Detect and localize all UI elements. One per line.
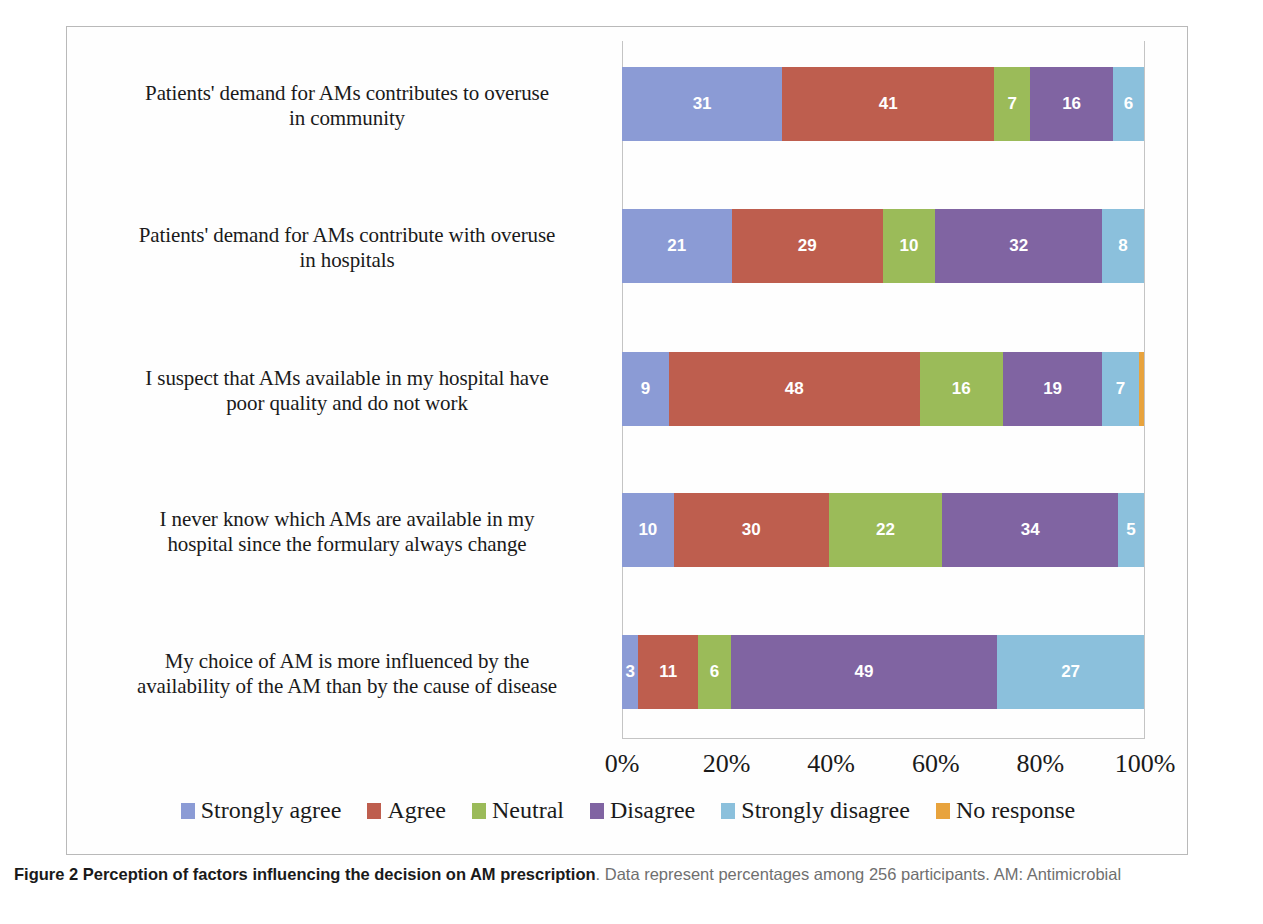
legend-item[interactable]: Strongly agree <box>181 797 342 824</box>
bar-value-label: 49 <box>855 662 874 682</box>
category-label-line: in hospitals <box>77 248 617 273</box>
legend-item[interactable]: Neutral <box>472 797 564 824</box>
bar-segment: 19 <box>1003 352 1102 426</box>
bar-value-label: 6 <box>1124 94 1133 114</box>
bar-segment: 9 <box>622 352 669 426</box>
bar-value-label: 34 <box>1021 520 1040 540</box>
bar-value-label: 22 <box>876 520 895 540</box>
x-axis-tick-label: 0% <box>605 749 640 779</box>
bar-segment: 11 <box>638 635 698 709</box>
x-axis-tick-label: 100% <box>1115 749 1176 779</box>
legend-label: Strongly agree <box>201 797 342 824</box>
figure-caption: Figure 2 Perception of factors influenci… <box>14 862 1249 887</box>
category-label-line: I never know which AMs are available in … <box>77 507 617 532</box>
bar-value-label: 7 <box>1007 94 1016 114</box>
category-label-line: in community <box>77 106 617 131</box>
bar-value-label: 27 <box>1061 662 1080 682</box>
bar-value-label: 6 <box>710 662 719 682</box>
legend-label: Agree <box>387 797 446 824</box>
stacked-bar: 31417166 <box>622 67 1144 141</box>
legend-swatch-icon <box>472 803 486 819</box>
bar-segment: 30 <box>674 493 829 567</box>
figure-frame: Patients' demand for AMs contributes to … <box>66 26 1188 855</box>
bar-segment: 29 <box>732 209 883 283</box>
legend-label: Disagree <box>610 797 695 824</box>
bar-value-label: 32 <box>1009 236 1028 256</box>
legend-swatch-icon <box>367 803 381 819</box>
figure-caption-body: . Data represent percentages among 256 p… <box>596 865 1122 883</box>
bar-value-label: 16 <box>952 379 971 399</box>
category-label-line: I suspect that AMs available in my hospi… <box>77 366 617 391</box>
x-axis-tick-label: 20% <box>703 749 751 779</box>
bar-segment: 8 <box>1102 209 1144 283</box>
bar-value-label: 41 <box>879 94 898 114</box>
legend-item[interactable]: Agree <box>367 797 446 824</box>
category-label-line: Patients' demand for AMs contribute with… <box>77 223 617 248</box>
bar-value-label: 29 <box>798 236 817 256</box>
x-axis: 0%20%40%60%80%100% <box>622 743 1145 783</box>
legend-swatch-icon <box>721 803 735 819</box>
bar-segment: 7 <box>994 67 1030 141</box>
bar-segment <box>1139 352 1144 426</box>
bar-segment: 16 <box>920 352 1004 426</box>
bar-segment: 6 <box>698 635 731 709</box>
category-label-line: My choice of AM is more influenced by th… <box>77 649 617 674</box>
legend-swatch-icon <box>936 803 950 819</box>
bar-value-label: 21 <box>667 236 686 256</box>
x-axis-tick-label: 60% <box>912 749 960 779</box>
legend-label: Neutral <box>492 797 564 824</box>
legend-item[interactable]: Disagree <box>590 797 695 824</box>
bar-segment: 6 <box>1113 67 1144 141</box>
bar-value-label: 30 <box>742 520 761 540</box>
category-label: Patients' demand for AMs contribute with… <box>77 223 617 273</box>
category-label-line: hospital since the formulary always chan… <box>77 532 617 557</box>
stacked-bar: 94816197 <box>622 352 1144 426</box>
category-label-line: availability of the AM than by the cause… <box>77 674 617 699</box>
stacked-bar: 103022345 <box>622 493 1144 567</box>
bar-value-label: 10 <box>638 520 657 540</box>
bar-segment: 34 <box>942 493 1118 567</box>
legend-item[interactable]: Strongly disagree <box>721 797 910 824</box>
category-label: My choice of AM is more influenced by th… <box>77 649 617 699</box>
bar-value-label: 7 <box>1116 379 1125 399</box>
legend-swatch-icon <box>181 803 195 819</box>
bar-value-label: 11 <box>659 662 677 682</box>
bar-value-label: 31 <box>693 94 712 114</box>
stacked-bar-chart: Patients' demand for AMs contributes to … <box>67 27 1189 856</box>
figure-caption-title: Figure 2 Perception of factors influenci… <box>14 865 596 883</box>
category-label: I suspect that AMs available in my hospi… <box>77 366 617 416</box>
legend-label: Strongly disagree <box>741 797 910 824</box>
bar-segment: 32 <box>935 209 1102 283</box>
bar-segment: 16 <box>1030 67 1113 141</box>
bar-segment: 41 <box>782 67 994 141</box>
category-label: I never know which AMs are available in … <box>77 507 617 557</box>
bar-segment: 7 <box>1102 352 1139 426</box>
category-label-line: poor quality and do not work <box>77 391 617 416</box>
bar-value-label: 5 <box>1126 520 1135 540</box>
x-axis-tick-label: 40% <box>807 749 855 779</box>
stacked-bar: 31164927 <box>622 635 1144 709</box>
bar-value-label: 10 <box>900 236 919 256</box>
bar-segment: 10 <box>883 209 935 283</box>
bar-segment: 3 <box>622 635 638 709</box>
category-label-line: Patients' demand for AMs contributes to … <box>77 81 617 106</box>
bar-segment: 22 <box>829 493 943 567</box>
chart-legend: Strongly agreeAgreeNeutralDisagreeStrong… <box>67 797 1189 824</box>
bar-segment: 27 <box>997 635 1144 709</box>
stacked-bar: 212910328 <box>622 209 1144 283</box>
legend-item[interactable]: No response <box>936 797 1075 824</box>
bar-segment: 49 <box>731 635 997 709</box>
bar-value-label: 3 <box>625 662 634 682</box>
bar-segment: 48 <box>669 352 920 426</box>
bar-value-label: 16 <box>1062 94 1081 114</box>
bar-value-label: 9 <box>641 379 650 399</box>
bar-segment: 31 <box>622 67 782 141</box>
bar-value-label: 8 <box>1118 236 1127 256</box>
category-label: Patients' demand for AMs contributes to … <box>77 81 617 131</box>
legend-label: No response <box>956 797 1075 824</box>
bar-value-label: 48 <box>785 379 804 399</box>
bar-value-label: 19 <box>1043 379 1062 399</box>
legend-swatch-icon <box>590 803 604 819</box>
bar-segment: 10 <box>622 493 674 567</box>
bar-segment: 5 <box>1118 493 1144 567</box>
